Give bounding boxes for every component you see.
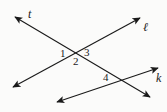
angle-label-4: 4	[103, 72, 109, 83]
line-label-l: ℓ	[143, 21, 148, 33]
line-l	[13, 18, 140, 87]
geometry-diagram: t ℓ k 1 2 3 4	[0, 0, 167, 112]
angle-label-2: 2	[73, 56, 79, 67]
line-t	[15, 17, 150, 97]
line-label-k: k	[156, 72, 161, 84]
angle-label-3: 3	[84, 47, 90, 58]
angle-label-1: 1	[60, 48, 66, 59]
line-label-t: t	[28, 8, 31, 20]
